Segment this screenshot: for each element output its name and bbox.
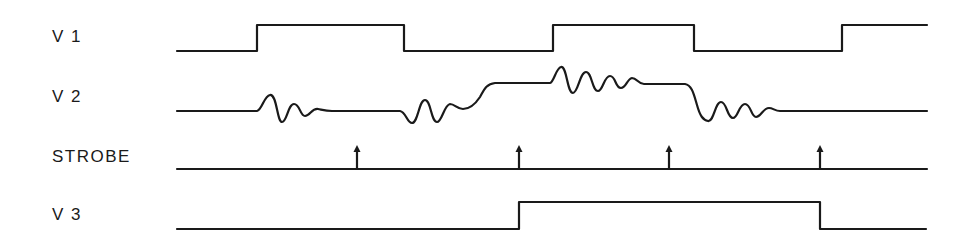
strobe-arrow-icon bbox=[817, 145, 824, 169]
strobe-arrow-icon bbox=[354, 145, 361, 169]
waveform-strobe bbox=[177, 145, 927, 169]
waveform-v3 bbox=[177, 202, 926, 229]
strobe-arrow-icon bbox=[516, 145, 523, 169]
strobe-arrow-icon bbox=[666, 145, 673, 169]
waveform-v1 bbox=[177, 25, 927, 51]
waveform-v2 bbox=[177, 67, 927, 123]
timing-diagram bbox=[0, 0, 976, 248]
